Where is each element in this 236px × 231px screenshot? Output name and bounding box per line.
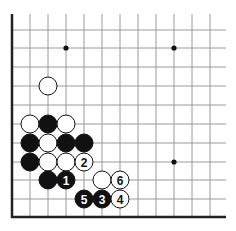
white-stone [39,134,57,152]
white-stone-icon [39,153,57,171]
black-stone [21,153,39,171]
black-stone [21,134,39,152]
white-stone: 4 [111,190,129,208]
black-stone-icon [21,153,39,171]
white-stone [57,115,75,133]
move-number: 5 [81,193,88,207]
move-number: 2 [81,156,88,170]
black-stone-icon [39,115,57,133]
star-point-icon [171,159,176,164]
star-point-icon [171,45,176,50]
white-stone [57,153,75,171]
black-stone [75,134,93,152]
white-stone [21,115,39,133]
black-stone: 5 [75,190,93,208]
black-stone: 1 [57,171,75,189]
white-stone [93,171,111,189]
white-stone: 6 [111,171,129,189]
black-stone [39,171,57,189]
white-stone-icon [39,134,57,152]
white-stone: 2 [75,153,93,171]
black-stone: 3 [93,190,111,208]
go-board-diagram: 216534 [0,0,236,231]
move-number: 4 [117,193,124,207]
white-stone-icon [21,115,39,133]
move-number: 3 [99,193,106,207]
black-stone-icon [75,134,93,152]
white-stone-icon [93,171,111,189]
black-stone [39,115,57,133]
black-stone-icon [21,134,39,152]
black-stone-icon [39,171,57,189]
white-stone-icon [57,153,75,171]
move-number: 1 [63,174,70,188]
white-stone-icon [39,77,57,95]
white-stone [39,77,57,95]
black-stone-icon [57,134,75,152]
star-point-icon [63,45,68,50]
white-stone [39,153,57,171]
move-number: 6 [117,174,124,188]
black-stone [57,134,75,152]
white-stone-icon [57,115,75,133]
